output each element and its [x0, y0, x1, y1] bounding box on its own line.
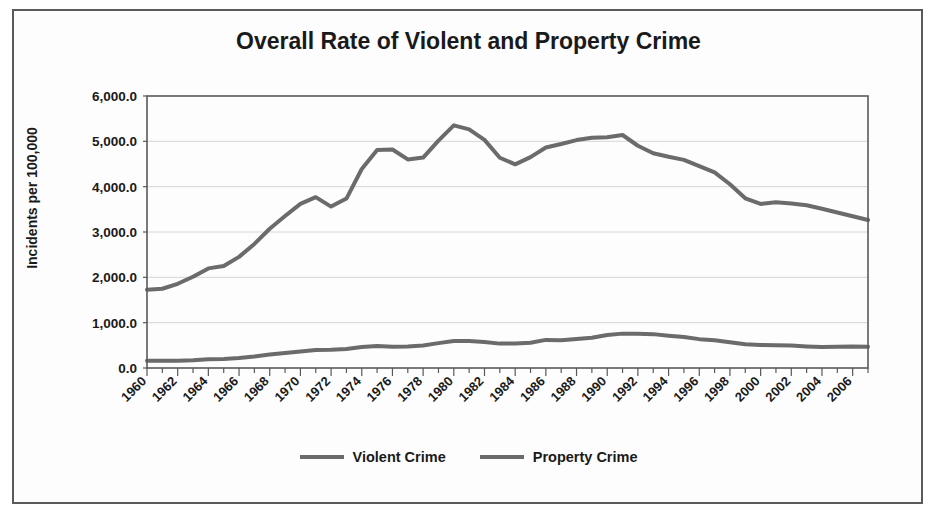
svg-text:1988: 1988	[548, 374, 579, 405]
svg-text:2000: 2000	[732, 374, 763, 405]
svg-text:1968: 1968	[241, 374, 272, 405]
legend-label-property-crime: Property Crime	[533, 449, 638, 465]
svg-text:2002: 2002	[762, 374, 793, 405]
svg-text:1960: 1960	[118, 374, 149, 405]
series-line-property-crime	[147, 125, 868, 289]
svg-text:1976: 1976	[364, 374, 395, 405]
svg-text:1964: 1964	[179, 373, 211, 405]
svg-text:4,000.0: 4,000.0	[92, 180, 137, 195]
svg-text:1962: 1962	[149, 374, 180, 405]
svg-text:1974: 1974	[333, 373, 365, 405]
x-axis-tick-labels: 1960196219641966196819701972197419761978…	[118, 373, 855, 405]
legend-line-swatch-property-crime	[480, 455, 524, 459]
legend-line-swatch-violent-crime	[300, 455, 344, 459]
svg-text:1996: 1996	[670, 374, 701, 405]
legend-label-violent-crime: Violent Crime	[353, 449, 446, 465]
svg-text:2006: 2006	[824, 374, 855, 405]
data-series	[147, 125, 868, 361]
legend-item-property-crime: Property Crime	[480, 449, 638, 465]
svg-text:1990: 1990	[578, 374, 609, 405]
chart-page: Overall Rate of Violent and Property Cri…	[0, 0, 937, 524]
svg-text:1972: 1972	[302, 374, 333, 405]
chart-legend: Violent Crime Property Crime	[0, 449, 937, 465]
svg-text:2,000.0: 2,000.0	[92, 270, 137, 285]
svg-text:1970: 1970	[271, 374, 302, 405]
svg-text:1980: 1980	[425, 374, 456, 405]
y-axis-tick-labels: 0.01,000.02,000.03,000.04,000.05,000.06,…	[92, 89, 137, 376]
svg-text:5,000.0: 5,000.0	[92, 134, 137, 149]
svg-text:1994: 1994	[640, 373, 672, 405]
plot-area: 0.01,000.02,000.03,000.04,000.05,000.06,…	[0, 0, 937, 524]
svg-text:1982: 1982	[456, 374, 487, 405]
svg-text:1986: 1986	[517, 374, 548, 405]
svg-text:1998: 1998	[701, 374, 732, 405]
svg-text:2004: 2004	[793, 373, 825, 405]
gridlines	[143, 96, 868, 368]
svg-text:1966: 1966	[210, 374, 241, 405]
svg-text:1992: 1992	[609, 374, 640, 405]
svg-text:1,000.0: 1,000.0	[92, 316, 137, 331]
svg-text:1978: 1978	[394, 374, 425, 405]
svg-text:0.0: 0.0	[118, 361, 137, 376]
svg-text:1984: 1984	[486, 373, 518, 405]
svg-text:3,000.0: 3,000.0	[92, 225, 137, 240]
series-line-violent-crime	[147, 334, 868, 361]
svg-text:6,000.0: 6,000.0	[92, 89, 137, 104]
legend-item-violent-crime: Violent Crime	[300, 449, 446, 465]
